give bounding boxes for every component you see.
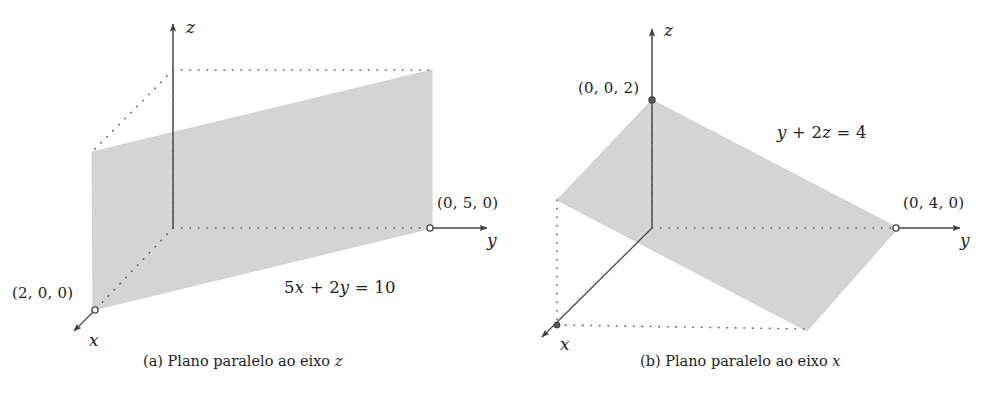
panel-b-graphic <box>542 29 960 337</box>
panel-b-eq-var1: y <box>777 123 787 142</box>
panel-b-caption-axis: x <box>832 353 840 369</box>
panel-a-caption-axis: z <box>335 353 343 369</box>
diagram-canvas <box>0 0 999 398</box>
panel-a-caption-text: Plano paralelo ao eixo <box>168 353 331 369</box>
panel-a-caption-prefix: (a) <box>143 353 163 369</box>
panel-a-plane-surface <box>92 70 432 310</box>
panel-b-caption: (b) Plano paralelo ao eixo x <box>640 353 841 369</box>
panel-b-y-intercept-marker <box>893 225 899 231</box>
panel-b-z-intercept-marker <box>649 97 655 103</box>
panel-b-bottom-horizontal-dotted <box>557 325 806 329</box>
figure-container: z y x (2, 0, 0) (0, 5, 0) 5x + 2y = 10 (… <box>0 0 999 398</box>
panel-b-eq-plus: + <box>792 123 806 142</box>
panel-a-x-intercept-label: (2, 0, 0) <box>12 284 73 302</box>
panel-a-x-axis-label: x <box>89 330 99 350</box>
panel-b-x-axis-label: x <box>560 334 570 354</box>
panel-a-eq-equals: = <box>355 278 369 297</box>
panel-b-caption-text: Plano paralelo ao eixo <box>665 353 828 369</box>
panel-a-y-intercept-label: (0, 5, 0) <box>437 194 498 212</box>
panel-b-x-axis <box>542 228 652 337</box>
panel-a-x-intercept-marker <box>92 307 98 313</box>
panel-a-equation-label: 5x + 2y = 10 <box>284 278 396 297</box>
panel-a-x-axis <box>74 310 95 331</box>
panel-b-eq-var2: z <box>822 123 831 142</box>
panel-b-eq-coef2: 2 <box>811 123 822 142</box>
panel-b-x-axis-corner-marker <box>554 322 560 328</box>
panel-a-y-intercept-marker <box>427 225 433 231</box>
panel-a-eq-var1: x <box>295 278 305 297</box>
panel-a-eq-plus: + <box>310 278 324 297</box>
panel-b-z-intercept-label: (0, 0, 2) <box>578 79 639 97</box>
panel-a-eq-rhs: 10 <box>374 278 395 297</box>
panel-a-eq-var2: y <box>340 278 350 297</box>
panel-b-eq-rhs: 4 <box>856 123 867 142</box>
panel-a-caption: (a) Plano paralelo ao eixo z <box>143 353 342 369</box>
panel-b-z-axis-label: z <box>664 20 673 40</box>
panel-a-eq-coef2: 2 <box>329 278 340 297</box>
panel-b-y-axis-label: y <box>960 230 970 250</box>
panel-a-eq-coef1: 5 <box>284 278 295 297</box>
panel-b-y-intercept-label: (0, 4, 0) <box>903 194 964 212</box>
panel-a-graphic <box>74 24 487 331</box>
panel-a-y-axis-label: y <box>487 230 497 250</box>
panel-a-z-axis-label: z <box>186 17 195 37</box>
panel-b-eq-equals: = <box>837 123 851 142</box>
panel-b-caption-prefix: (b) <box>640 353 661 369</box>
panel-b-equation-label: y + 2z = 4 <box>777 123 867 142</box>
